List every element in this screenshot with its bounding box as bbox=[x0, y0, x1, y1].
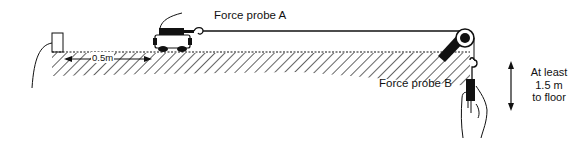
force-probe-a-label: Force probe A bbox=[214, 9, 286, 21]
distance-label: 0.5m bbox=[91, 52, 114, 63]
height-label: At least 1.5 m to floor bbox=[529, 66, 569, 104]
height-label-line1: At least bbox=[529, 66, 569, 79]
trolley bbox=[153, 13, 194, 52]
force-probe-b-label: Force probe B bbox=[379, 77, 452, 89]
apparatus-diagram bbox=[0, 0, 579, 145]
height-arrow bbox=[508, 61, 514, 111]
height-label-line3: to floor bbox=[529, 91, 569, 104]
probe-a-hook bbox=[194, 28, 203, 34]
height-label-line2: 1.5 m bbox=[529, 79, 569, 92]
